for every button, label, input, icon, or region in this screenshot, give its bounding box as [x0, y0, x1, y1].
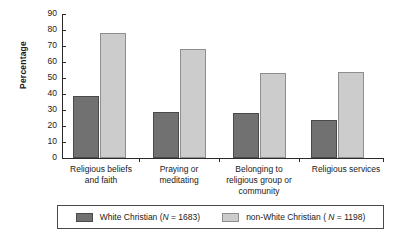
- y-tick-mark: [63, 158, 67, 159]
- legend-label-non-white-christian: non-White Christian ( N = 1198): [246, 212, 365, 222]
- y-tick-mark: [63, 30, 67, 31]
- x-tick-label-2: Belonging to religious group or communit…: [215, 164, 303, 197]
- x-tick-mark-0: [139, 158, 140, 162]
- x-label-line: Praying or: [141, 164, 217, 175]
- x-label-line: community: [215, 186, 303, 197]
- x-tick-label-3: Religious services: [301, 164, 391, 175]
- bar-chart-figure: Percentage 0 10 20 30 40 50: [0, 0, 409, 245]
- bar-group-3: [311, 14, 364, 158]
- legend-swatch-icon: [222, 213, 239, 222]
- x-label-line: Religious beliefs: [57, 164, 145, 175]
- y-tick-mark: [63, 78, 67, 79]
- bar-group-1: [153, 14, 206, 158]
- y-tick-label: 60: [48, 56, 57, 67]
- bar-white-christian-3[interactable]: [311, 120, 337, 158]
- bar-non-white-christian-3[interactable]: [338, 72, 364, 158]
- x-axis-line: [62, 158, 384, 159]
- plot-area: 0 10 20 30 40 50 60 70: [63, 14, 384, 158]
- y-tick-label: 20: [48, 120, 57, 131]
- legend-item-non-white-christian[interactable]: non-White Christian ( N = 1198): [222, 212, 365, 222]
- bar-group-2: [233, 14, 286, 158]
- bar-non-white-christian-0[interactable]: [100, 33, 126, 158]
- y-tick-label: 30: [48, 104, 57, 115]
- y-tick-mark: [63, 46, 67, 47]
- x-tick-label-0: Religious beliefs and faith: [57, 164, 145, 186]
- x-tick-mark-2: [299, 158, 300, 162]
- y-tick-mark: [63, 110, 67, 111]
- x-label-line: and faith: [57, 175, 145, 186]
- x-tick-mark-3: [383, 158, 384, 162]
- bar-white-christian-1[interactable]: [153, 112, 179, 158]
- bar-white-christian-0[interactable]: [73, 96, 99, 158]
- bar-white-christian-2[interactable]: [233, 113, 259, 158]
- legend-label-white-christian: White Christian (N = 1683): [100, 212, 200, 222]
- x-label-line: religious group or: [215, 175, 303, 186]
- x-tick-label-1: Praying or meditating: [141, 164, 217, 186]
- y-tick-mark: [63, 142, 67, 143]
- y-tick-mark: [63, 14, 67, 15]
- y-axis-line: [62, 14, 63, 159]
- bar-group-0: [73, 14, 126, 158]
- x-tick-mark-1: [219, 158, 220, 162]
- y-tick-label: 50: [48, 72, 57, 83]
- y-tick-mark: [63, 126, 67, 127]
- x-label-line: meditating: [141, 175, 217, 186]
- y-tick-label: 70: [48, 40, 57, 51]
- y-tick-label: 40: [48, 88, 57, 99]
- y-tick-label: 90: [48, 8, 57, 19]
- bar-non-white-christian-2[interactable]: [260, 73, 286, 158]
- y-axis-title: Percentage: [18, 20, 28, 110]
- chart-legend: White Christian (N = 1683) non-White Chr…: [57, 205, 384, 229]
- x-label-line: Religious services: [301, 164, 391, 175]
- bar-non-white-christian-1[interactable]: [180, 49, 206, 158]
- y-tick-label: 10: [48, 136, 57, 147]
- y-tick-mark: [63, 94, 67, 95]
- x-label-line: Belonging to: [215, 164, 303, 175]
- y-tick-label: 0: [52, 152, 57, 163]
- legend-swatch-icon: [76, 213, 93, 222]
- y-tick-label: 80: [48, 24, 57, 35]
- y-tick-mark: [63, 62, 67, 63]
- legend-item-white-christian[interactable]: White Christian (N = 1683): [76, 212, 200, 222]
